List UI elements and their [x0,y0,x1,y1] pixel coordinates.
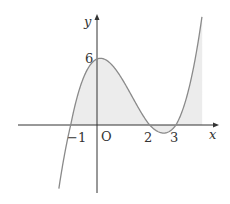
shaded-area [71,15,203,133]
y-axis-arrow-icon [95,14,100,20]
x-tick-2: 2 [144,130,152,145]
y-tick-6: 6 [85,51,93,66]
graph-svg: y x O 6 −1 2 3 [0,0,230,204]
x-tick-3: 3 [170,130,178,145]
graph-figure: y x O 6 −1 2 3 [0,0,230,204]
x-axis-label: x [209,127,217,142]
y-axis-label: y [83,14,92,29]
x-tick-neg1: −1 [67,130,86,145]
origin-label: O [101,129,112,144]
